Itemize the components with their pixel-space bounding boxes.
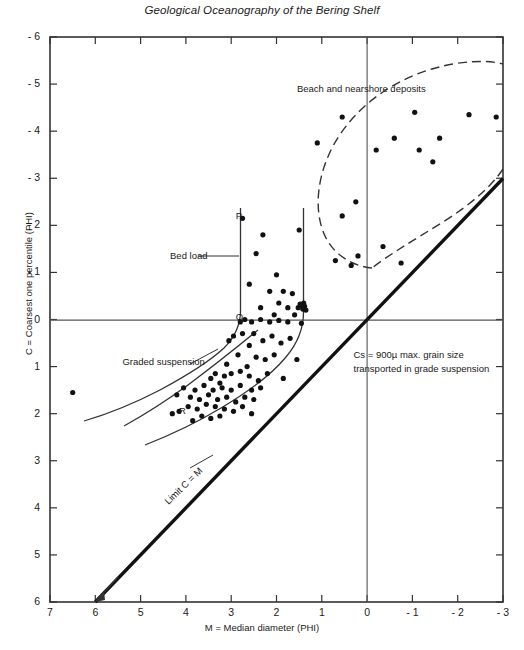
- data-point: [269, 333, 274, 338]
- data-point: [249, 388, 254, 393]
- data-point: [224, 362, 229, 367]
- data-point: [211, 388, 216, 393]
- data-point: [276, 300, 281, 305]
- data-point: [204, 402, 209, 407]
- data-point: [355, 253, 360, 258]
- data-point: [417, 147, 422, 152]
- data-point: [258, 305, 263, 310]
- x-tick-label: 1: [307, 606, 337, 618]
- data-point: [220, 385, 225, 390]
- y-tick-label: - 6: [6, 30, 40, 42]
- data-point: [188, 395, 193, 400]
- point-q-label: Q: [236, 310, 243, 323]
- data-point: [340, 213, 345, 218]
- data-point: [249, 319, 254, 324]
- data-point: [290, 291, 295, 296]
- data-point: [263, 357, 268, 362]
- x-tick-label: 7: [35, 606, 65, 618]
- data-points-group: [70, 110, 499, 424]
- data-point: [215, 397, 220, 402]
- data-point: [285, 305, 290, 310]
- data-point: [258, 317, 263, 322]
- data-point: [247, 343, 252, 348]
- data-point: [222, 373, 227, 378]
- data-point: [229, 371, 234, 376]
- data-point: [238, 369, 243, 374]
- data-point: [281, 376, 286, 381]
- data-point: [297, 227, 302, 232]
- data-point: [240, 404, 245, 409]
- data-point: [199, 413, 204, 418]
- data-point: [251, 397, 256, 402]
- data-point: [247, 282, 252, 287]
- data-point: [242, 395, 247, 400]
- data-point: [254, 251, 259, 256]
- data-point: [267, 319, 272, 324]
- data-point: [181, 385, 186, 390]
- data-point: [272, 312, 277, 317]
- data-point: [201, 383, 206, 388]
- data-point: [292, 312, 297, 317]
- data-point: [340, 114, 345, 119]
- data-point: [208, 376, 213, 381]
- data-point: [174, 392, 179, 397]
- data-point: [229, 388, 234, 393]
- y-tick-label: 0: [6, 313, 40, 325]
- data-point: [296, 305, 301, 310]
- x-tick-label: 3: [216, 606, 246, 618]
- data-point: [231, 333, 236, 338]
- data-point: [272, 352, 277, 357]
- y-tick-label: - 1: [6, 265, 40, 277]
- data-point: [190, 418, 195, 423]
- data-point: [238, 383, 243, 388]
- bed-load-label: Bed load: [170, 249, 208, 262]
- data-point: [224, 395, 229, 400]
- x-tick-label: 2: [262, 606, 292, 618]
- data-point: [288, 336, 293, 341]
- data-point: [195, 406, 200, 411]
- point-p-label: P: [236, 209, 242, 222]
- x-tick-label: 0: [352, 606, 382, 618]
- data-point: [285, 319, 290, 324]
- graded-suspension-label: Graded suspension: [122, 355, 204, 368]
- data-point: [254, 355, 259, 360]
- data-point: [349, 263, 354, 268]
- envelope-curves: [84, 61, 503, 445]
- data-point: [186, 404, 191, 409]
- x-tick-label: - 3: [488, 606, 518, 618]
- data-point: [222, 406, 227, 411]
- data-point: [226, 338, 231, 343]
- data-point: [267, 289, 272, 294]
- data-point: [374, 147, 379, 152]
- data-point: [494, 114, 499, 119]
- data-point: [192, 388, 197, 393]
- x-tick-label: - 1: [397, 606, 427, 618]
- cm-diagram-figure: Geological Oceanography of the Bering Sh…: [0, 0, 524, 650]
- data-point: [256, 378, 261, 383]
- data-point: [265, 371, 270, 376]
- data-point: [399, 260, 404, 265]
- beach-and-nearshore-deposits-label: Beach and nearshore deposits: [297, 82, 426, 95]
- bed-load-envelope-pq: [84, 208, 241, 421]
- data-point: [437, 136, 442, 141]
- data-point: [392, 136, 397, 141]
- cs-max-grain-size-label: Cs = 900µ max. grain size: [354, 348, 464, 361]
- data-point: [170, 411, 175, 416]
- data-point: [249, 411, 254, 416]
- y-tick-label: 4: [6, 501, 40, 513]
- data-point: [315, 140, 320, 145]
- y-tick-label: - 4: [6, 124, 40, 136]
- data-point: [240, 331, 245, 336]
- x-tick-label: - 2: [443, 606, 473, 618]
- data-point: [303, 308, 308, 313]
- data-point: [380, 244, 385, 249]
- data-point: [353, 199, 358, 204]
- bottom-axis-arrowhead: [95, 591, 105, 602]
- data-point: [217, 381, 222, 386]
- data-point: [245, 364, 250, 369]
- data-point: [276, 318, 281, 323]
- y-tick-label: 3: [6, 454, 40, 466]
- leader-lines: [95, 256, 239, 602]
- y-tick-label: - 2: [6, 218, 40, 230]
- x-tick-label: 6: [80, 606, 110, 618]
